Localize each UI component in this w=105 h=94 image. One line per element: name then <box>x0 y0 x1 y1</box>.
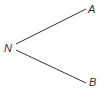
ray-nb <box>16 50 86 83</box>
angle-diagram: N A B <box>0 0 105 94</box>
vertex-label-n: N <box>4 42 12 54</box>
point-label-b: B <box>89 76 96 88</box>
point-label-a: A <box>87 3 95 15</box>
ray-na <box>16 9 86 44</box>
